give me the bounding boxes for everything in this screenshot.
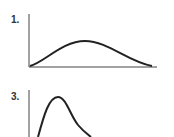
- panel-1-curve: [30, 41, 152, 66]
- diagram-canvas: [0, 0, 174, 137]
- panel-3: [29, 90, 91, 137]
- panel-3-curve: [38, 97, 91, 137]
- panel-1: [29, 14, 157, 67]
